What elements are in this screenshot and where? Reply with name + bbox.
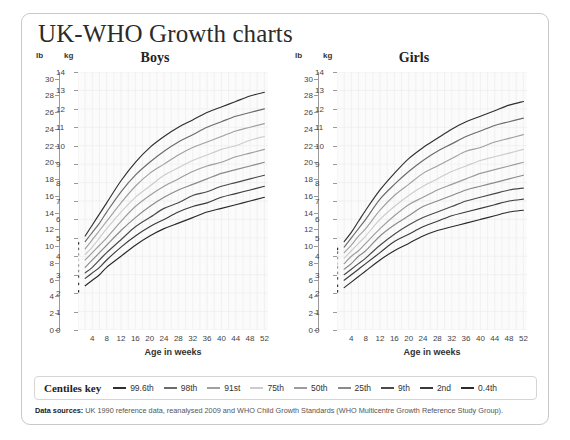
legend-item[interactable]: 91st [207,383,240,393]
x-axis-tick-label: 48 [246,334,255,343]
y-axis-tick-label-kg: 2 [56,289,74,298]
x-axis-tick-label: 40 [476,334,485,343]
birth-centile-dot [337,262,338,264]
birth-centile-dot [337,251,338,253]
x-axis-tick-label: 16 [390,334,399,343]
birth-centile-dot [78,283,79,285]
plot-area-girls [337,72,527,330]
y-axis-tick-label-lb: 4 [30,292,54,301]
plot-area-boys [78,72,268,330]
y-axis-tick-label-lb: 20 [289,158,313,167]
y-axis-tick-lb [314,263,318,264]
centile-curve [85,137,264,255]
y-axis-tick-lb [55,95,59,96]
unit-label-kg: kg [323,51,332,60]
y-axis-tick-label-lb: 20 [30,158,54,167]
legend-label: 9th [398,383,410,393]
y-axis-tick-lb [314,79,318,80]
y-axis-tick-label-lb: 12 [289,225,313,234]
y-axis-tick-label-lb: 4 [289,292,313,301]
y-axis-tick-label-kg: 8 [315,178,333,187]
y-axis-tick-label-kg: 0 [315,326,333,335]
legend-item[interactable]: 2nd [420,383,451,393]
legend-item[interactable]: 99.6th [113,383,154,393]
y-axis-tick-label-lb: 18 [30,175,54,184]
x-axis-tick-label: 12 [376,334,385,343]
legend-label: 25th [355,383,372,393]
legend-item[interactable]: 25th [338,383,372,393]
y-axis-tick-label-lb: 18 [289,175,313,184]
y-axis-tick-lb [314,229,318,230]
legend-label: 99.6th [130,383,154,393]
y-axis-tick-label-lb: 16 [30,191,54,200]
y-axis-tick-label-lb: 22 [30,141,54,150]
y-axis-tick-label-kg: 11 [56,123,74,132]
birth-centile-dot [337,277,338,279]
centile-curve [344,101,523,241]
x-axis-tick-label: 28 [174,334,183,343]
x-axis-tick-label: 32 [447,334,456,343]
y-axis-tick-label-lb: 30 [289,74,313,83]
birth-centile-dot [78,242,79,244]
birth-centile-dot [337,285,338,287]
x-axis-tick-label: 48 [505,334,514,343]
x-axis-tick-label: 24 [419,334,428,343]
legend-item[interactable]: 50th [294,383,328,393]
x-axis-title-boys: Age in weeks [78,347,268,357]
centiles-legend: Centiles key 99.6th98th91st75th50th25th9… [34,376,537,400]
legend-label: 91st [224,383,240,393]
legend-swatch [164,387,177,389]
legend-label: 0.4th [478,383,497,393]
y-axis-tick-label-kg: 8 [56,178,74,187]
y-axis-tick-label-kg: 10 [56,141,74,150]
legend-swatch [207,387,220,389]
y-axis-tick-label-kg: 7 [56,197,74,206]
y-axis-tick-label-lb: 0 [30,326,54,335]
y-axis-tick-label-kg: 13 [315,86,333,95]
data-sources-footer: Data sources: UK 1990 reference data, re… [35,406,538,415]
x-axis-tick-label: 44 [490,334,499,343]
unit-label-lb: lb [295,51,302,60]
legend-label: 2nd [437,383,451,393]
legend-item[interactable]: 75th [250,383,284,393]
birth-centile-dot [337,272,338,274]
birth-centile-dot [337,290,338,292]
birth-centile-dot [337,257,338,259]
footer-label: Data sources: [35,406,83,415]
y-axis-tick-label-kg: 1 [315,307,333,316]
y-axis-tick-label-lb: 10 [30,242,54,251]
x-axis-tick-label: 36 [203,334,212,343]
y-axis-tick-lb [55,280,59,281]
y-axis-tick-label-kg: 3 [315,270,333,279]
birth-centile-dot [337,248,338,250]
y-axis-tick-label-kg: 7 [315,197,333,206]
birth-centile-dot [78,270,79,272]
y-axis-tick-label-lb: 24 [30,124,54,133]
y-axis-tick-label-kg: 5 [315,233,333,242]
footer-text: UK 1990 reference data, reanalysed 2009 … [83,406,503,415]
y-axis-tick-kg [333,330,337,331]
legend-swatch [420,387,433,389]
y-axis-tick-label-lb: 26 [289,108,313,117]
y-axis-tick-label-lb: 12 [30,225,54,234]
x-axis-tick-label: 28 [433,334,442,343]
x-axis-tick-label: 8 [363,334,367,343]
legend-swatch [250,387,263,389]
y-axis-tick-label-kg: 12 [315,104,333,113]
y-axis-tick-label-lb: 8 [30,258,54,267]
y-axis-tick-label-kg: 6 [56,215,74,224]
y-axis-tick-lb [314,95,318,96]
y-axis-tick-label-kg: 11 [315,123,333,132]
birth-centile-dot [337,266,338,268]
y-axis-tick-label-lb: 0 [289,326,313,335]
legend-item[interactable]: 98th [164,383,198,393]
y-axis-tick-label-lb: 30 [30,74,54,83]
y-axis-tick-label-lb: 2 [289,309,313,318]
legend-swatch [338,387,351,389]
x-axis-tick-label: 8 [104,334,108,343]
y-axis-tick-label-kg: 4 [56,252,74,261]
y-axis-tick-label-kg: 12 [56,104,74,113]
y-axis-tick-label-kg: 10 [315,141,333,150]
legend-item[interactable]: 0.4th [461,383,497,393]
legend-item[interactable]: 9th [381,383,410,393]
